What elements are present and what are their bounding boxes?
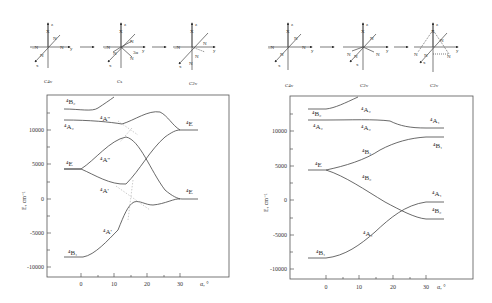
svg-text:N: N	[414, 52, 418, 57]
svg-text:-10000: -10000	[270, 266, 287, 272]
svg-text:⁴A₂: ⁴A₂	[361, 124, 371, 132]
label-cs: Cs	[117, 79, 122, 84]
left-y-tick-labels: 10000 5000 0 -5000 -10000	[27, 127, 44, 270]
left-x-ticks	[81, 273, 180, 277]
right-annotations: ⁴B₂ ⁴A₂ ⁴A₂ ⁴A₂ ⁴A₁ ⁴B₁ ⁴B₁ ⁴E ⁴B₂ ⁴A₁ ⁴…	[312, 106, 443, 257]
svg-text:⁴E: ⁴E	[186, 188, 193, 196]
svg-text:⁴B₂: ⁴B₂	[362, 174, 372, 182]
svg-text:3α: 3α	[133, 50, 139, 55]
svg-text:y: y	[70, 46, 73, 51]
svg-text:N: N	[60, 45, 64, 50]
svg-text:–N: –N	[103, 45, 111, 50]
figure-canvas: z X –N N y N N x C4v z X –N y N N N 3α x…	[0, 0, 492, 303]
svg-text:N: N	[195, 54, 199, 59]
right-x-axis-label: α, °	[437, 284, 446, 290]
svg-text:z: z	[291, 22, 294, 27]
svg-text:⁴E: ⁴E	[186, 120, 193, 128]
svg-text:N: N	[203, 41, 207, 46]
svg-text:30: 30	[177, 281, 183, 287]
right-scheme-c2v-a-labels: z X N y N N N x C2v	[347, 22, 389, 88]
svg-text:30: 30	[423, 284, 429, 290]
svg-text:-10000: -10000	[27, 264, 44, 270]
svg-text:N: N	[424, 53, 428, 58]
left-diabatic-crossings	[116, 121, 150, 220]
left-scheme-cs-labels: z X –N y N N N 3α x Cs	[103, 22, 145, 84]
label-c2v-3: C2v	[430, 83, 439, 88]
svg-text:N: N	[189, 61, 193, 66]
svg-text:⁴A': ⁴A'	[100, 187, 109, 195]
right-chart: 10000 5000 0 -5000 -10000 E, cm⁻¹ 0 10 2…	[263, 96, 473, 290]
svg-text:z: z	[436, 22, 439, 27]
svg-text:y: y	[213, 48, 216, 53]
svg-text:N: N	[447, 54, 451, 59]
svg-text:⁴B₂: ⁴B₂	[312, 110, 322, 118]
svg-text:0: 0	[80, 281, 83, 287]
svg-text:x: x	[356, 62, 359, 67]
svg-text:⁴A'': ⁴A''	[100, 156, 110, 164]
svg-text:⁴A₂: ⁴A₂	[313, 123, 323, 131]
right-x-tick-labels: 0 10 20 30	[325, 284, 430, 290]
left-chart: 10000 5000 0 -5000 -10000 E, cm⁻¹ 0 10 2…	[21, 95, 229, 287]
left-y-ticks	[47, 113, 51, 267]
left-x-axis-label: α, °	[200, 281, 209, 287]
svg-text:–N: –N	[267, 45, 275, 50]
svg-text:10000: 10000	[272, 128, 287, 134]
svg-text:x: x	[278, 63, 281, 68]
svg-text:X: X	[119, 29, 123, 34]
svg-text:0: 0	[325, 284, 328, 290]
svg-text:5000: 5000	[275, 163, 287, 169]
svg-text:X: X	[361, 29, 365, 34]
svg-text:⁴B₁: ⁴B₁	[316, 249, 326, 257]
svg-text:N: N	[130, 56, 134, 61]
svg-text:N: N	[40, 53, 44, 58]
right-y-axis-label: E, cm⁻¹	[263, 193, 269, 212]
label-c4v-2: C4v	[285, 83, 294, 88]
svg-text:N: N	[370, 36, 374, 41]
svg-text:⁴B₂: ⁴B₂	[432, 207, 442, 215]
svg-text:⁴A': ⁴A'	[103, 228, 112, 236]
svg-text:x: x	[109, 63, 112, 68]
svg-text:y: y	[386, 48, 389, 53]
svg-text:X: X	[286, 29, 290, 34]
svg-text:10: 10	[111, 281, 117, 287]
svg-text:⁴B₁: ⁴B₁	[68, 249, 78, 257]
svg-text:⁴A₂: ⁴A₂	[361, 106, 371, 114]
label-c4v-1: C4v	[44, 79, 53, 84]
svg-text:N: N	[347, 52, 351, 57]
svg-text:⁴E: ⁴E	[66, 160, 73, 168]
svg-text:0: 0	[284, 197, 287, 203]
svg-text:N: N	[53, 36, 57, 41]
left-curves	[64, 97, 198, 257]
svg-text:⁴A₁: ⁴A₁	[432, 190, 442, 198]
svg-text:⁴A'': ⁴A''	[100, 115, 110, 123]
svg-text:x: x	[423, 60, 426, 65]
svg-text:5000: 5000	[32, 161, 44, 167]
svg-text:z: z	[124, 22, 127, 27]
svg-text:⁴B₁: ⁴B₁	[433, 142, 443, 150]
svg-text:⁴B₁: ⁴B₁	[362, 148, 372, 156]
svg-text:x: x	[179, 64, 182, 69]
right-curves	[308, 97, 444, 258]
right-scheme-c2v-a	[343, 23, 388, 70]
svg-text:-5000: -5000	[273, 232, 287, 238]
svg-text:X: X	[46, 29, 50, 34]
svg-text:N: N	[130, 39, 134, 44]
svg-text:N: N	[302, 45, 306, 50]
svg-text:X: X	[431, 29, 435, 34]
svg-text:N: N	[294, 36, 298, 41]
left-scheme-c4v-labels: z X –N N y N N x C4v	[31, 22, 73, 84]
left-x-tick-labels: 0 10 20 30	[80, 281, 184, 287]
right-y-ticks	[290, 114, 294, 269]
svg-text:y: y	[456, 48, 459, 53]
right-scheme-c2v-b	[414, 23, 458, 72]
svg-text:10: 10	[356, 284, 362, 290]
svg-text:z: z	[366, 22, 369, 27]
svg-text:20: 20	[144, 281, 150, 287]
svg-text:⁴A₂: ⁴A₂	[64, 123, 74, 131]
svg-text:⁴E: ⁴E	[315, 161, 322, 169]
svg-text:x: x	[36, 63, 39, 68]
svg-text:0: 0	[41, 196, 44, 202]
label-c2v-2: C2v	[360, 83, 369, 88]
svg-text:X: X	[190, 29, 194, 34]
svg-text:y: y	[311, 48, 314, 53]
